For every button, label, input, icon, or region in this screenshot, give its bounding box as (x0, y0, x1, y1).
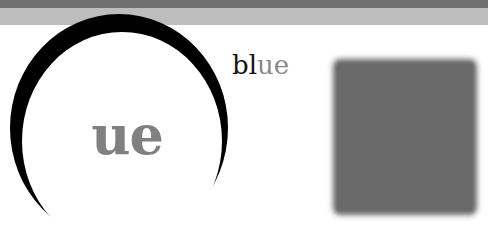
top-bar-light-band (0, 8, 488, 25)
word-label-dark-part: bl (232, 50, 257, 80)
gray-square (336, 62, 474, 212)
word-label: blue (232, 48, 289, 82)
word-label-gray-part: ue (257, 50, 289, 80)
circle-text: ue (72, 100, 182, 170)
circle-ring: ue (10, 14, 228, 242)
top-bar-dark-band (0, 0, 488, 8)
